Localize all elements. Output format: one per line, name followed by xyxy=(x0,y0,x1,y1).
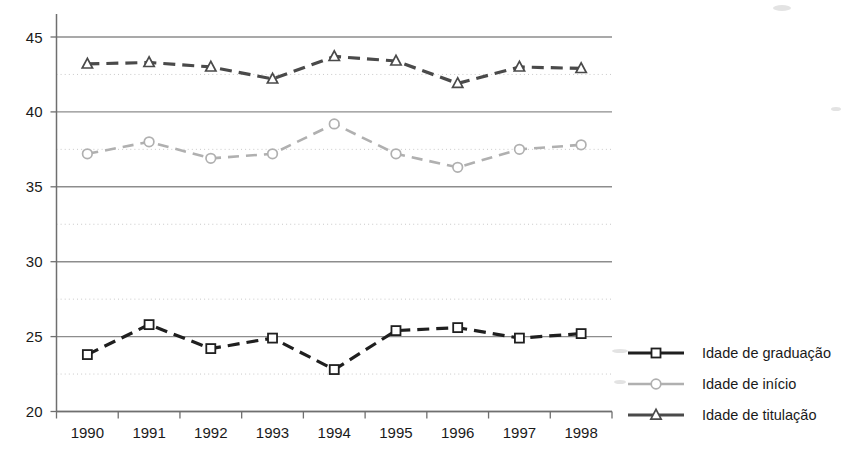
x-axis-tick-label: 1993 xyxy=(256,424,289,441)
y-axis-tick-label: 40 xyxy=(26,103,43,120)
square-marker-icon xyxy=(145,320,154,329)
x-axis-tick-labels: 199019911992199319941995199619971998 xyxy=(71,424,598,441)
y-axis-tick-labels: 454035302520 xyxy=(26,29,43,421)
line-chart: 454035302520 199019911992199319941995199… xyxy=(0,0,850,471)
square-marker-icon xyxy=(206,344,215,353)
circle-marker-icon xyxy=(206,154,216,164)
legend-label: Idade de graduação xyxy=(702,345,831,361)
circle-marker-icon xyxy=(83,149,93,159)
legend-label: Idade de início xyxy=(702,376,796,392)
x-axis-tick-label: 1991 xyxy=(132,424,165,441)
square-marker-icon xyxy=(268,334,277,343)
scan-artifacts xyxy=(612,5,841,384)
circle-marker-icon xyxy=(576,140,586,150)
circle-marker-icon xyxy=(453,163,463,173)
y-axis-tick-label: 25 xyxy=(26,328,43,345)
square-marker-icon xyxy=(83,350,92,359)
x-axis-tick-label: 1998 xyxy=(564,424,597,441)
legend-item[interactable]: Idade de graduação xyxy=(628,345,831,361)
legend-label: Idade de titulação xyxy=(702,407,816,423)
circle-marker-icon xyxy=(515,145,525,155)
circle-marker-icon xyxy=(268,149,278,159)
y-axis-tick-label: 20 xyxy=(26,403,43,420)
gridlines xyxy=(57,37,613,412)
series-2 xyxy=(83,119,586,172)
circle-marker-icon xyxy=(329,119,339,129)
chart-container: 454035302520 199019911992199319941995199… xyxy=(0,0,850,471)
legend-item[interactable]: Idade de titulação xyxy=(628,407,816,423)
y-axis-tick-label: 30 xyxy=(26,253,43,270)
circle-marker-icon xyxy=(144,137,154,147)
x-axis-tick-label: 1994 xyxy=(318,424,351,441)
legend-item[interactable]: Idade de início xyxy=(628,376,796,392)
x-axis-tick-label: 1990 xyxy=(71,424,104,441)
square-marker-icon xyxy=(515,334,524,343)
x-axis-tick-label: 1995 xyxy=(379,424,412,441)
series-line xyxy=(87,325,581,370)
series-3 xyxy=(82,51,586,88)
x-axis-tick-label: 1992 xyxy=(194,424,227,441)
circle-marker-icon xyxy=(651,379,661,389)
square-marker-icon xyxy=(652,349,661,358)
series-1 xyxy=(83,320,586,374)
square-marker-icon xyxy=(330,365,339,374)
y-axis-tick-label: 35 xyxy=(26,178,43,195)
square-marker-icon xyxy=(577,329,586,338)
data-series-layer xyxy=(82,51,586,374)
x-axis-tick-label: 1997 xyxy=(503,424,536,441)
square-marker-icon xyxy=(391,326,400,335)
x-axis-tick-label: 1996 xyxy=(441,424,474,441)
series-line xyxy=(87,124,581,167)
square-marker-icon xyxy=(453,323,462,332)
y-axis-tick-label: 45 xyxy=(26,29,43,46)
circle-marker-icon xyxy=(391,149,401,159)
chart-legend: Idade de graduaçãoIdade de inícioIdade d… xyxy=(628,345,831,423)
